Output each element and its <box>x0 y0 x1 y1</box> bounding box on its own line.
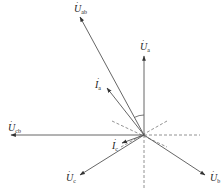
phasor-arrows <box>11 17 205 175</box>
label-subscript: ab <box>81 9 87 15</box>
phasor-dot-mark: · <box>114 136 117 144</box>
phasor-dot-mark: · <box>212 168 215 176</box>
phasor-Uab <box>80 17 144 135</box>
label-Ua: ·Ua <box>140 42 150 53</box>
label-Ia: ·Ia <box>95 80 101 91</box>
label-Ucb: ·Ucb <box>8 123 21 134</box>
label-Uab: ·Uab <box>74 4 87 15</box>
phasor-diagram <box>0 0 224 190</box>
label-subscript: c <box>73 178 76 184</box>
phasor-dot-mark: · <box>68 168 71 176</box>
label-subscript: a <box>98 85 101 91</box>
label-subscript: b <box>217 178 220 184</box>
phasor-dot-mark: · <box>142 37 145 45</box>
phasor-dot-mark: · <box>10 118 13 126</box>
label-Uc: ·Uc <box>66 173 76 184</box>
label-Ub: ·Ub <box>210 173 220 184</box>
angle-arc <box>134 115 144 117</box>
phasor-Ub <box>144 135 205 175</box>
label-subscript: cb <box>15 128 21 134</box>
phasor-Ia <box>107 88 144 135</box>
dashed-line-2 <box>112 121 167 147</box>
label-subscript: a <box>147 47 150 53</box>
label-Ic: ·Ic <box>112 141 118 152</box>
reference-dashed-lines <box>112 121 200 190</box>
phasor-dot-mark: · <box>97 75 100 83</box>
phasor-dot-mark: · <box>76 0 79 7</box>
label-subscript: c <box>115 146 118 152</box>
